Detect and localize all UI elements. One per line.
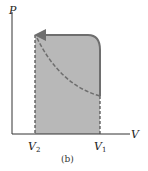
v2-label: V2 (28, 140, 40, 154)
p-axis-label: P (8, 4, 17, 17)
v-axis-label: V (131, 128, 140, 141)
pv-diagram: P V V2 V1 (b) (0, 0, 148, 171)
v1-label: V1 (94, 140, 106, 154)
shaded-work-region (35, 35, 100, 134)
caption: (b) (61, 154, 74, 164)
